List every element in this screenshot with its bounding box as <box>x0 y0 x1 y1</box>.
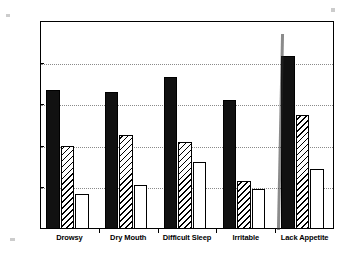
x-axis-label-irritable: Irritable <box>216 233 275 242</box>
x-axis-label-difficult-sleep: Difficult Sleep <box>158 233 217 242</box>
bar-drowsy-series-2[interactable] <box>61 146 75 229</box>
speckle-artifact <box>331 8 335 12</box>
bar-group <box>46 21 89 229</box>
bar-difficult-sleep-series-3[interactable] <box>193 162 207 229</box>
speckle-artifact <box>6 14 10 17</box>
bar-drowsy-series-1[interactable] <box>46 90 60 229</box>
bar-irritable-series-1[interactable] <box>223 100 237 229</box>
bar-irritable-series-3[interactable] <box>252 189 266 229</box>
bar-lack-appetite-series-1[interactable] <box>281 56 295 229</box>
bar-difficult-sleep-series-2[interactable] <box>178 142 192 229</box>
x-axis-label-drowsy: Drowsy <box>40 233 99 242</box>
bar-dry-mouth-series-3[interactable] <box>134 185 148 229</box>
x-axis-label-lack-appetite: Lack Appetite <box>275 233 334 242</box>
bar-difficult-sleep-series-1[interactable] <box>164 77 178 229</box>
bar-lack-appetite-series-3[interactable] <box>310 169 324 229</box>
bar-group <box>164 21 207 229</box>
bar-irritable-series-2[interactable] <box>237 181 251 229</box>
bar-group <box>105 21 148 229</box>
bar-dry-mouth-series-1[interactable] <box>105 92 119 229</box>
bar-chart: 100% 80% 60% 40% 20% 0% DrowsyDry MouthD… <box>0 0 343 254</box>
bar-drowsy-series-3[interactable] <box>75 194 89 229</box>
bar-lack-appetite-series-2[interactable] <box>296 115 310 229</box>
bar-group <box>281 21 324 229</box>
bar-dry-mouth-series-2[interactable] <box>119 135 133 229</box>
speckle-artifact <box>10 238 15 241</box>
x-axis-label-dry-mouth: Dry Mouth <box>99 233 158 242</box>
bars-layer <box>40 21 334 229</box>
bar-group <box>223 21 266 229</box>
